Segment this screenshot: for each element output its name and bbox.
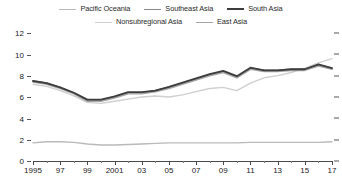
legend-item-nonsubregional-asia: Nonsubregional Asia xyxy=(95,16,182,28)
x-tick-2003 xyxy=(142,161,143,165)
x-tick-2005 xyxy=(169,161,170,165)
legend-item-east-asia: East Asia xyxy=(196,16,247,28)
x-tick-2016 xyxy=(318,161,319,163)
series-lines xyxy=(33,33,332,161)
legend-label-southeast-asia: Southeast Asia xyxy=(165,3,213,15)
x-tick-label-15: 15 xyxy=(300,166,309,175)
x-tick-2013 xyxy=(278,161,279,165)
y-tick-mark-right xyxy=(334,97,339,98)
x-tick-2008 xyxy=(210,161,211,163)
x-tick-1995 xyxy=(33,161,34,165)
x-tick-label-97: 97 xyxy=(56,166,65,175)
x-tick-2009 xyxy=(223,161,224,165)
y-tick-12: 12 xyxy=(10,24,33,42)
y-tick-mark-right xyxy=(334,33,339,34)
legend-swatch-south-asia xyxy=(227,8,244,10)
legend-label-pacific-oceania: Pacific Oceania xyxy=(80,3,130,15)
x-tick-label-17: 17 xyxy=(328,166,337,175)
y-tick-label: 10 xyxy=(10,51,24,60)
line-chart: Pacific Oceania Southeast Asia South Asi… xyxy=(0,0,342,186)
y-tick-2: 2 xyxy=(10,131,33,149)
legend-row-1: Pacific Oceania Southeast Asia South Asi… xyxy=(0,3,342,15)
x-tick-label-99: 99 xyxy=(83,166,92,175)
legend-label-south-asia: South Asia xyxy=(248,3,282,15)
legend-row-2: Nonsubregional Asia East Asia xyxy=(0,16,342,28)
legend-swatch-nonsubregional-asia xyxy=(95,22,112,23)
legend-item-pacific-oceania: Pacific Oceania xyxy=(59,3,130,15)
x-tick-label-2001: 2001 xyxy=(106,166,124,175)
x-tick-1998 xyxy=(74,161,75,163)
x-tick-1996 xyxy=(47,161,48,163)
x-tick-2010 xyxy=(237,161,238,163)
x-tick-2012 xyxy=(264,161,265,163)
y-tick-mark-right xyxy=(334,139,339,140)
x-tick-2001 xyxy=(115,161,116,165)
y-tick-mark-right xyxy=(334,161,339,162)
x-tick-label-05: 05 xyxy=(164,166,173,175)
y-tick-mark xyxy=(27,33,31,34)
x-tick-2004 xyxy=(155,161,156,163)
x-tick-label-11: 11 xyxy=(246,166,254,175)
legend-swatch-east-asia xyxy=(196,22,213,23)
x-tick-label-09: 09 xyxy=(219,166,228,175)
x-tick-2015 xyxy=(305,161,306,165)
legend-label-nonsubregional-asia: Nonsubregional Asia xyxy=(116,16,182,28)
y-tick-label: 12 xyxy=(10,29,24,38)
y-tick-6: 6 xyxy=(10,88,33,106)
x-tick-2014 xyxy=(291,161,292,163)
legend-swatch-southeast-asia xyxy=(144,9,161,10)
y-tick-mark-right xyxy=(334,54,339,55)
y-tick-label: 6 xyxy=(10,93,24,102)
x-tick-label-07: 07 xyxy=(192,166,201,175)
chart-legend: Pacific Oceania Southeast Asia South Asi… xyxy=(0,2,342,28)
y-tick-mark-right xyxy=(334,118,339,119)
y-tick-label: 8 xyxy=(10,72,24,81)
legend-item-south-asia: South Asia xyxy=(227,3,282,15)
y-tick-mark xyxy=(27,140,31,141)
y-tick-label: 2 xyxy=(10,136,24,145)
legend-swatch-pacific-oceania xyxy=(59,9,76,10)
x-tick-2007 xyxy=(196,161,197,165)
x-tick-1999 xyxy=(87,161,88,165)
y-tick-4: 4 xyxy=(10,109,33,127)
x-tick-2002 xyxy=(128,161,129,163)
legend-label-east-asia: East Asia xyxy=(217,16,247,28)
y-tick-8: 8 xyxy=(10,67,33,85)
x-tick-1997 xyxy=(60,161,61,165)
x-tick-label-1995: 1995 xyxy=(24,166,42,175)
y-tick-10: 10 xyxy=(10,45,33,63)
y-tick-mark xyxy=(27,97,31,98)
y-tick-label: 4 xyxy=(10,115,24,124)
series-line-pacific-oceania xyxy=(33,142,332,145)
y-tick-mark xyxy=(27,161,31,162)
y-tick-mark xyxy=(27,76,31,77)
x-tick-label-03: 03 xyxy=(137,166,146,175)
plot-area: 121086420 xyxy=(33,33,332,161)
x-tick-label-13: 13 xyxy=(273,166,282,175)
y-tick-mark xyxy=(27,55,31,56)
y-tick-label: 0 xyxy=(10,157,24,166)
x-tick-2011 xyxy=(250,161,251,165)
y-tick-mark-right xyxy=(334,75,339,76)
legend-item-southeast-asia: Southeast Asia xyxy=(144,3,213,15)
x-tick-2000 xyxy=(101,161,102,163)
x-tick-2017 xyxy=(332,161,333,165)
series-line-east-asia xyxy=(33,66,332,101)
x-tick-2006 xyxy=(183,161,184,163)
y-tick-mark xyxy=(27,119,31,120)
